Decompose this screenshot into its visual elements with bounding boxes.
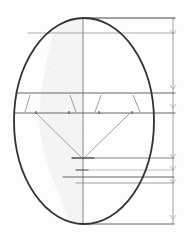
shading [39,18,83,224]
horizontal-guides [15,18,175,224]
head-proportion-sketch [0,0,188,240]
head-oval [14,18,154,224]
drawing-canvas [0,0,188,240]
